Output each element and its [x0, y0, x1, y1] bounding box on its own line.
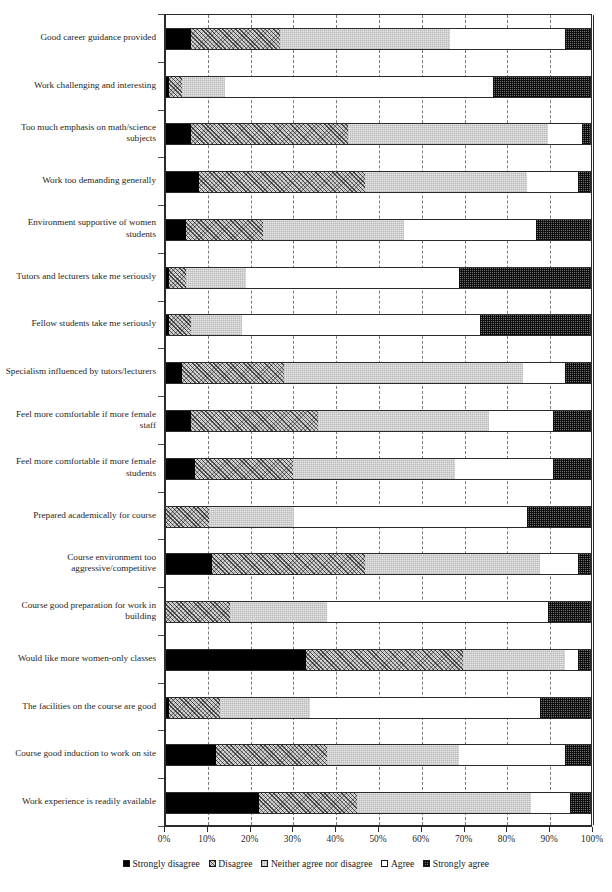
bar-segment	[165, 123, 191, 145]
bar-segment	[199, 171, 365, 193]
bar-segment	[191, 314, 242, 336]
bar-segment	[578, 171, 591, 193]
bar-segment	[318, 410, 488, 432]
bar-row	[165, 744, 591, 766]
bar-segment	[165, 28, 191, 50]
bar-segment	[186, 267, 246, 289]
bar-row	[165, 76, 591, 98]
bar-row	[165, 506, 591, 528]
bar-segment	[365, 171, 527, 193]
category-label: Prepared academically for course	[0, 510, 156, 522]
bar-segment	[365, 553, 540, 575]
bar-segment	[548, 601, 591, 623]
category-axis-labels: Good career guidance providedWork challe…	[0, 14, 160, 826]
bar-segment	[553, 458, 591, 480]
bar-segment	[327, 744, 459, 766]
bar-segment	[310, 697, 540, 719]
category-label: Course environment too aggressive/compet…	[0, 552, 156, 575]
category-label: Work too demanding generally	[0, 175, 156, 187]
bar-row	[165, 792, 591, 814]
category-label: Course good induction to work on site	[0, 748, 156, 760]
bar-segment	[166, 601, 230, 623]
category-label: Too much emphasis on math/science subjec…	[0, 122, 156, 145]
bar-segment	[165, 219, 186, 241]
legend-label: Agree	[391, 858, 414, 869]
category-label: Course good preparation for work in buil…	[0, 600, 156, 623]
category-label: Specialism influenced by tutors/lecturer…	[0, 366, 156, 378]
bar-segment	[225, 76, 493, 98]
bar-segment	[348, 123, 548, 145]
bar-segment	[455, 458, 553, 480]
legend-item[interactable]: Agree	[381, 858, 414, 869]
bar-segment	[165, 458, 195, 480]
bar-row	[165, 697, 591, 719]
value-tick	[335, 827, 336, 832]
bar-segment	[553, 410, 591, 432]
bar-segment	[536, 219, 591, 241]
bar-segment	[578, 649, 591, 671]
bar-row	[165, 362, 591, 384]
bar-row	[165, 410, 591, 432]
bar-segment	[165, 553, 212, 575]
bar-segment	[191, 28, 280, 50]
bar-row	[165, 314, 591, 336]
bar-segment	[459, 744, 566, 766]
legend-swatch-icon	[209, 860, 216, 867]
bar-row	[165, 649, 591, 671]
bar-row	[165, 28, 591, 50]
category-label: Work experience is readily available	[0, 796, 156, 808]
bar-segment	[246, 267, 459, 289]
bar-segment	[186, 219, 263, 241]
bar-segment	[463, 649, 565, 671]
bar-segment	[169, 314, 190, 336]
value-tick-label: 10%	[185, 834, 229, 844]
bar-segment	[489, 410, 553, 432]
legend-item[interactable]: Strongly agree	[423, 858, 489, 869]
category-label: Tutors and lecturers take me seriously	[0, 271, 156, 283]
legend-item[interactable]: Strongly disagree	[123, 858, 200, 869]
bar-segment	[220, 697, 309, 719]
plot-area	[164, 14, 592, 826]
bar-segment	[230, 601, 328, 623]
bar-segment	[165, 792, 259, 814]
category-label: Would like more women-only classes	[0, 653, 156, 665]
legend-item[interactable]: Neither agree nor disagree	[261, 858, 372, 869]
stacked-bar-chart: Good career guidance providedWork challe…	[0, 0, 612, 892]
bar-segment	[540, 697, 591, 719]
bar-segment	[357, 792, 532, 814]
bar-segment	[578, 553, 591, 575]
bar-segment	[165, 362, 182, 384]
bar-segment	[182, 362, 284, 384]
value-tick-label: 60%	[399, 834, 443, 844]
bar-segment	[450, 28, 565, 50]
bar-segment	[195, 458, 293, 480]
bar-row	[165, 123, 591, 145]
bar-row	[165, 601, 591, 623]
legend-swatch-icon	[423, 860, 430, 867]
bar-segment	[531, 792, 569, 814]
bar-segment	[565, 744, 591, 766]
value-tick-label: 20%	[228, 834, 272, 844]
value-tick	[250, 827, 251, 832]
bar-segment	[306, 649, 464, 671]
value-tick	[592, 827, 593, 832]
bar-segment	[212, 553, 365, 575]
bar-segment	[165, 744, 216, 766]
legend-swatch-icon	[381, 860, 388, 867]
category-label: Environment supportive of women students	[0, 217, 156, 240]
bar-segment	[259, 792, 357, 814]
bar-rows	[165, 15, 591, 825]
category-label: Work challenging and interesting	[0, 80, 156, 92]
value-tick	[164, 827, 165, 832]
bar-segment	[459, 267, 591, 289]
bar-segment	[165, 410, 191, 432]
bar-segment	[527, 506, 591, 528]
bar-segment	[527, 171, 578, 193]
bar-segment	[523, 362, 566, 384]
bar-segment	[565, 362, 591, 384]
bar-segment	[293, 458, 455, 480]
legend-item[interactable]: Disagree	[209, 858, 253, 869]
legend-label: Neither agree nor disagree	[271, 858, 372, 869]
bar-segment	[548, 123, 582, 145]
legend-label: Strongly disagree	[132, 858, 199, 869]
